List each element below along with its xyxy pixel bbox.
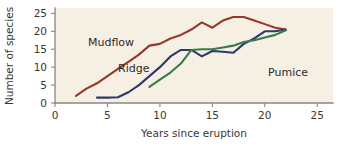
x-tick-label-5: 5 — [104, 109, 111, 121]
y-axis: 0510152025 — [34, 7, 55, 109]
series-label-ridge: Ridge — [118, 62, 150, 75]
series-label-mudflow: Mudflow — [88, 36, 134, 49]
y-tick-labels: 0510152025 — [34, 7, 47, 109]
x-axis-title: Years since eruption — [140, 127, 247, 139]
y-tick-label-5: 5 — [40, 79, 47, 91]
series-label-pumice: Pumice — [268, 66, 308, 79]
line-chart: 0510152025 0510152025 MudflowRidgePumice… — [0, 0, 344, 146]
x-tick-label-0: 0 — [52, 109, 59, 121]
y-tick-label-10: 10 — [34, 61, 47, 73]
x-tick-labels: 0510152025 — [52, 109, 324, 121]
x-axis: 0510152025 — [52, 103, 333, 121]
y-axis-title: Number of species — [3, 7, 15, 105]
x-tick-label-20: 20 — [258, 109, 271, 121]
y-tick-label-15: 15 — [34, 43, 47, 55]
y-tick-label-20: 20 — [34, 25, 47, 37]
x-tick-label-25: 25 — [311, 109, 324, 121]
x-tick-label-15: 15 — [206, 109, 219, 121]
chart-figure: 0510152025 0510152025 MudflowRidgePumice… — [0, 0, 344, 146]
x-tick-label-10: 10 — [153, 109, 166, 121]
y-tick-label-0: 0 — [40, 97, 47, 109]
plot-background — [55, 8, 333, 103]
y-tick-label-25: 25 — [34, 7, 47, 19]
